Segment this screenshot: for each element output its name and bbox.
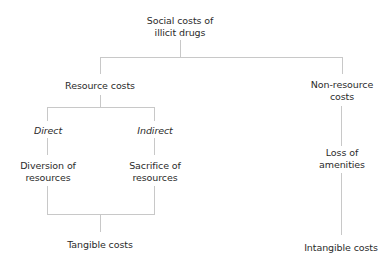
node-social-costs-line2: illicit drugs [147, 27, 214, 39]
connector-root-branch [100, 57, 342, 58]
node-diversion-of-resources: Diversion of resources [20, 160, 76, 184]
node-diversion-line1: Diversion of [20, 160, 76, 172]
connector-to-indirect [154, 107, 155, 121]
connector-direct-diversion [47, 138, 48, 155]
connector-sacrifice-down [154, 186, 155, 214]
connector-indirect-sacrifice [154, 138, 155, 155]
node-direct: Direct [34, 125, 62, 137]
node-resource-costs: Resource costs [65, 80, 135, 92]
node-sacrifice-line2: resources [129, 172, 181, 184]
connector-resource-branch [47, 107, 154, 108]
node-tangible-label: Tangible costs [67, 239, 133, 251]
node-non-resource-costs: Non-resource costs [311, 79, 373, 103]
connector-to-direct [47, 107, 48, 121]
node-social-costs-line1: Social costs of [147, 15, 214, 27]
node-diversion-line2: resources [20, 172, 76, 184]
node-intangible-label: Intangible costs [304, 242, 378, 254]
node-indirect-label: Indirect [137, 125, 172, 137]
connector-non-resource-amenities [341, 106, 342, 146]
connector-amenities-intangible [341, 173, 342, 235]
node-non-resource-line1: Non-resource [311, 79, 373, 91]
connector-root-down [180, 40, 181, 57]
connector-to-non-resource [342, 57, 343, 74]
node-resource-costs-label: Resource costs [65, 80, 135, 92]
node-intangible-costs: Intangible costs [304, 242, 378, 254]
connector-to-resource [100, 57, 101, 74]
node-indirect: Indirect [137, 125, 172, 137]
node-non-resource-line2: costs [311, 91, 373, 103]
node-amenities-line1: Loss of [319, 147, 365, 159]
connector-tangible-merge [47, 214, 155, 215]
connector-diversion-down [47, 186, 48, 214]
connector-resource-down [100, 95, 101, 107]
node-sacrifice-of-resources: Sacrifice of resources [129, 160, 181, 184]
connector-to-tangible [100, 214, 101, 232]
node-tangible-costs: Tangible costs [67, 239, 133, 251]
node-social-costs: Social costs of illicit drugs [147, 15, 214, 39]
node-sacrifice-line1: Sacrifice of [129, 160, 181, 172]
node-amenities-line2: amenities [319, 159, 365, 171]
node-direct-label: Direct [34, 125, 62, 137]
node-loss-of-amenities: Loss of amenities [319, 147, 365, 171]
